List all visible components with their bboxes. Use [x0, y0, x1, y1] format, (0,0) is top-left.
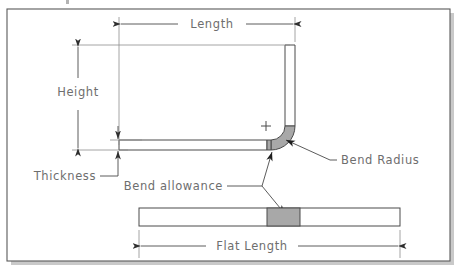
flat-strip-bend-region [267, 208, 300, 226]
vertical-leg [285, 45, 295, 126]
flat-length-label: Flat Length [216, 239, 287, 253]
length-label: Length [190, 17, 233, 31]
clipped-artifact [66, 0, 69, 4]
diagram-canvas: Length Height Thickness [0, 0, 461, 275]
bend-allowance-label: Bend allowance [124, 179, 223, 193]
flat-strip [139, 208, 400, 226]
thickness-label: Thickness [33, 169, 96, 183]
height-label: Height [57, 85, 99, 99]
bend-radius-label: Bend Radius [341, 153, 419, 167]
bend-allowance-diagram: Length Height Thickness [0, 0, 461, 275]
horizontal-leg [119, 140, 267, 150]
